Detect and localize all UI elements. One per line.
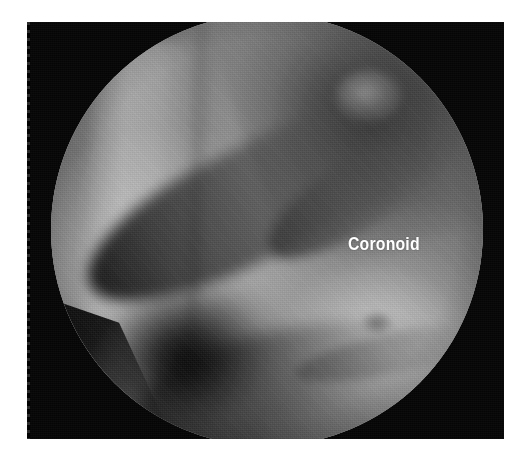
anatomical-label-coronoid: Coronoid [348, 235, 420, 253]
scope-field-of-view [51, 22, 483, 439]
page-root: Coronoid [0, 0, 522, 462]
specular-rim-highlight-lower-right [51, 22, 483, 439]
arthroscopy-image-panel: Coronoid [27, 22, 504, 439]
panel-left-edge-artifact [27, 22, 30, 439]
